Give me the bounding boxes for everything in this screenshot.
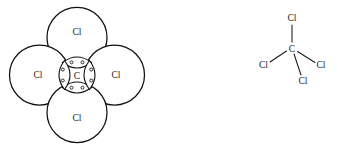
structural-chlorine-label-top: Cl xyxy=(288,13,297,23)
ccl4-structural-formula: C Cl Cl Cl Cl xyxy=(259,13,326,86)
chlorine-label-left: Cl xyxy=(34,70,43,80)
electron-dot xyxy=(70,86,73,89)
structural-chlorine-label-bottom-right: Cl xyxy=(299,76,308,86)
ccl4-space-filling-model: Cl Cl Cl Cl C xyxy=(10,8,145,143)
electron-dot xyxy=(70,61,73,64)
bond-line-bottom-right xyxy=(294,54,301,75)
bond-line-left xyxy=(270,51,287,62)
electron-dot xyxy=(61,68,64,71)
bond-line-right xyxy=(298,52,316,63)
ccl4-figure: Cl Cl Cl Cl C C Cl Cl Cl Cl xyxy=(0,0,338,150)
carbon-label-center: C xyxy=(74,71,80,81)
electron-dot xyxy=(90,79,93,82)
electron-dot xyxy=(81,86,84,89)
electron-dot xyxy=(81,61,84,64)
chlorine-label-bottom: Cl xyxy=(73,113,82,123)
chlorine-label-right: Cl xyxy=(112,70,121,80)
electron-dot xyxy=(90,68,93,71)
electron-dot xyxy=(61,79,64,82)
chlorine-label-top: Cl xyxy=(73,27,82,37)
structural-carbon-label: C xyxy=(289,44,295,54)
ccl4-diagram-canvas: Cl Cl Cl Cl C C Cl Cl Cl Cl xyxy=(0,0,338,150)
structural-chlorine-label-left: Cl xyxy=(259,60,268,70)
structural-chlorine-label-right: Cl xyxy=(317,60,326,70)
